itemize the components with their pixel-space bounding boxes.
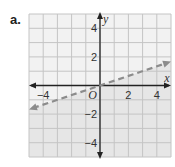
- y-tick-label: −4: [84, 137, 97, 149]
- x-axis-label: x: [163, 71, 170, 85]
- coordinate-plane: −42442−2−4Oxy: [0, 0, 175, 167]
- y-axis-label: y: [102, 12, 109, 26]
- y-tick-label: 4: [91, 22, 97, 34]
- origin-label: O: [88, 88, 97, 102]
- y-tick-label: −2: [84, 108, 97, 120]
- x-tick-label: 2: [125, 89, 131, 101]
- x-tick-label: −4: [37, 89, 50, 101]
- y-tick-label: 2: [91, 51, 97, 63]
- x-tick-label: 4: [154, 89, 160, 101]
